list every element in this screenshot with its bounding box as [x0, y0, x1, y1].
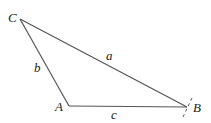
side-label-c: c: [111, 107, 117, 122]
vertex-label-a: A: [54, 99, 63, 114]
vertex-label-c: C: [8, 10, 17, 25]
side-label-a: a: [106, 48, 113, 63]
side-label-b: b: [34, 60, 41, 75]
triangle-diagram: C A B a b c: [0, 0, 211, 123]
side-c: [69, 106, 187, 107]
vertex-label-b: B: [193, 100, 201, 115]
